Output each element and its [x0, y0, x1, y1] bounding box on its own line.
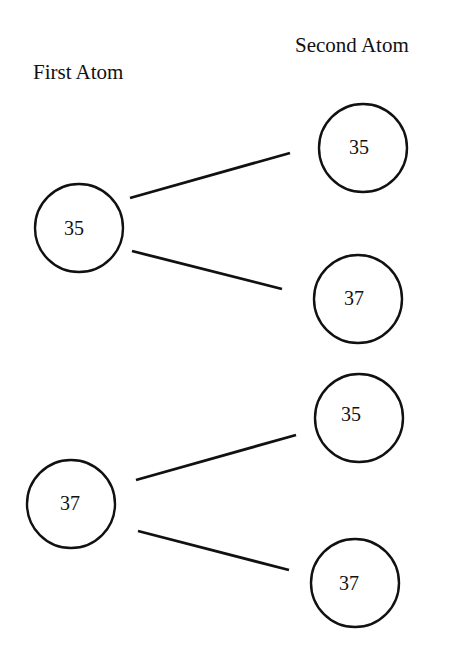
node-label: 35	[341, 403, 361, 425]
first-atom-header: First Atom	[33, 60, 123, 84]
edge-37-to-35	[136, 435, 296, 480]
node-label: 37	[344, 287, 364, 309]
edge-37-to-37	[138, 531, 289, 570]
node-label: 37	[339, 572, 359, 594]
edge-35-to-35	[130, 153, 290, 198]
first-atom-node-37: 37	[27, 460, 115, 548]
second-atom-node-35-lower: 35	[315, 374, 403, 462]
second-atom-node-37-lower: 37	[311, 539, 399, 627]
node-label: 35	[349, 136, 369, 158]
second-atom-node-35-upper: 35	[319, 104, 407, 192]
second-atom-node-37-upper: 37	[314, 255, 402, 343]
edge-35-to-37	[132, 251, 282, 289]
first-atom-node-35: 35	[35, 184, 123, 272]
node-label: 37	[60, 492, 80, 514]
node-label: 35	[64, 217, 84, 239]
second-atom-header: Second Atom	[295, 33, 409, 57]
isotope-tree-diagram: Second Atom First Atom 35 37 35 37 35 37	[0, 0, 453, 663]
